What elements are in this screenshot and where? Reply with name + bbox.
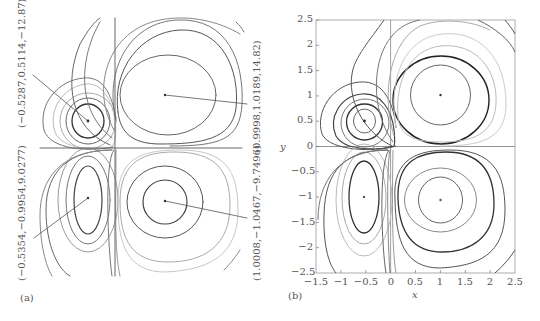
- annotation-bottom-left: (−0.5354,−0.9954,9.0277): [16, 145, 27, 281]
- panel-b-marker-tl: [363, 120, 366, 123]
- y-tick: 0.5: [295, 114, 313, 125]
- y-tick: 1: [295, 89, 313, 100]
- marker-br: [164, 200, 166, 202]
- panel-a-peak-bottom-left: [40, 148, 118, 276]
- pointer-line-tr: [165, 95, 247, 104]
- panel-b-peak-top-right: [351, 20, 515, 146]
- y-tick: 2: [295, 38, 313, 49]
- y-tick: −2: [291, 241, 313, 252]
- annotation-top-left: (−0.5287,0.5114,−12.87): [16, 0, 27, 128]
- panel-b-marker-bl: [363, 196, 365, 198]
- annotation-top-right: (0.9998,1.0189,14.82): [251, 40, 262, 153]
- panel-b-x-ticks: [341, 270, 490, 273]
- panel-b-label: (b): [288, 290, 302, 301]
- y-tick: 1.5: [295, 64, 313, 75]
- figure-canvas: [0, 0, 540, 321]
- y-tick: −1: [291, 190, 313, 201]
- panel-a-label: (a): [20, 292, 34, 303]
- panel-b-plot: [316, 20, 515, 273]
- y-tick: 0: [295, 140, 313, 151]
- annotation-bottom-right: (1.0008,−1.0467,−9.7496): [251, 145, 262, 281]
- marker-tr: [164, 94, 166, 96]
- y-tick: −0.5: [291, 165, 313, 176]
- panel-b-peak-bottom-left: [318, 144, 392, 273]
- panel-b-x-axis-label: x: [412, 289, 418, 300]
- y-tick: −1.5: [291, 216, 313, 227]
- panel-a-peak-top-right: [72, 18, 244, 146]
- marker-tl: [87, 120, 90, 123]
- panel-a-contours: [33, 18, 247, 276]
- y-tick: 2.5: [295, 13, 313, 24]
- panel-b-well-bottom-right: [392, 150, 515, 273]
- marker-bl: [87, 197, 89, 199]
- panel-b-y-axis-label: y: [280, 141, 286, 152]
- panel-b-well-top-left: [320, 82, 396, 150]
- panel-b-marker-br: [439, 199, 441, 201]
- pointer-line-br: [165, 201, 247, 218]
- x-tick: 2.5: [500, 276, 530, 287]
- panel-b-marker-tr: [439, 94, 441, 96]
- pointer-line-bl: [34, 198, 88, 238]
